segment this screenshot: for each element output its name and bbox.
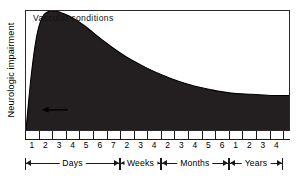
tick-label: 4 — [274, 140, 279, 150]
tick-mark — [188, 131, 189, 139]
tick-mark — [283, 131, 284, 139]
x-axis-period-brackets: DaysWeeksMonthsYears — [25, 156, 290, 172]
tick-mark — [25, 131, 26, 139]
chart-title: Vascular conditions — [33, 13, 114, 23]
bracket-arrow-right-icon — [277, 160, 282, 166]
tick-mark — [161, 131, 162, 139]
period-bracket: Years — [229, 156, 283, 172]
tick-label: 5 — [84, 140, 89, 150]
period-bracket: Months — [161, 156, 229, 172]
bracket-arrow-left-icon — [26, 160, 31, 166]
tick-label: 7 — [111, 140, 116, 150]
area-curve-svg — [26, 11, 289, 130]
tick-label: 2 — [125, 140, 130, 150]
period-bracket-label: Weeks — [124, 156, 157, 171]
bracket-arrow-right-icon — [114, 160, 119, 166]
tick-label: 3 — [179, 140, 184, 150]
tick-label: 4 — [70, 140, 75, 150]
tick-label: 3 — [260, 140, 265, 150]
tick-label: 6 — [97, 140, 102, 150]
tick-mark — [39, 131, 40, 139]
period-bracket: Weeks — [120, 156, 161, 172]
tick-mark — [120, 131, 121, 139]
tick-mark — [52, 131, 53, 139]
tick-label: 4 — [193, 140, 198, 150]
tick-label: 6 — [220, 140, 225, 150]
tick-mark — [107, 131, 108, 139]
plot-area: Vascular conditions — [25, 10, 290, 131]
tick-mark — [242, 131, 243, 139]
tick-mark — [202, 131, 203, 139]
tick-label: 2 — [165, 140, 170, 150]
tick-mark — [256, 131, 257, 139]
period-bracket: Days — [25, 156, 120, 172]
tick-mark — [215, 131, 216, 139]
tick-mark — [93, 131, 94, 139]
tick-mark — [174, 131, 175, 139]
tick-label: 1 — [29, 140, 34, 150]
tick-label: 2 — [247, 140, 252, 150]
bracket-arrow-right-icon — [223, 160, 228, 166]
y-axis-label-container: Neurologic impairment — [0, 8, 22, 132]
tick-mark — [229, 131, 230, 139]
x-axis-tick-labels: 1234567234234561234 — [25, 140, 290, 153]
tick-mark — [79, 131, 80, 139]
y-axis-label: Neurologic impairment — [6, 22, 16, 117]
tick-label: 1 — [233, 140, 238, 150]
period-bracket-label: Days — [59, 156, 85, 171]
tick-label: 3 — [57, 140, 62, 150]
tick-mark — [270, 131, 271, 139]
tick-label: 4 — [152, 140, 157, 150]
tick-label: 5 — [206, 140, 211, 150]
period-bracket-label: Years — [242, 156, 271, 171]
x-axis-tick-marks — [25, 131, 290, 140]
figure-vascular-conditions: Neurologic impairment Vascular condition… — [0, 0, 300, 176]
bracket-arrow-left-icon — [162, 160, 167, 166]
bracket-cap-right — [282, 158, 283, 170]
tick-mark — [134, 131, 135, 139]
tick-label: 2 — [43, 140, 48, 150]
bracket-arrow-left-icon — [230, 160, 235, 166]
tick-mark — [147, 131, 148, 139]
period-bracket-label: Months — [177, 156, 212, 171]
tick-label: 3 — [138, 140, 143, 150]
tick-mark — [66, 131, 67, 139]
